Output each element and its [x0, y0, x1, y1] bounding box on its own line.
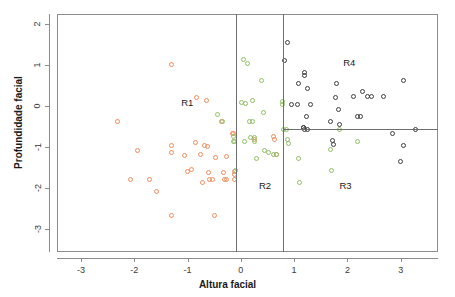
x-tick-label: -2: [130, 265, 138, 275]
partition-line-horizontal: [283, 129, 438, 130]
scatter-plot-figure: -3-2-10123210-1-2-3 R1R2R3R4 Altura faci…: [0, 0, 455, 297]
x-tick-mark: [241, 258, 242, 262]
region-label-r2: R2: [259, 180, 271, 191]
region-label-r4: R4: [343, 57, 355, 68]
x-tick-mark: [401, 258, 402, 262]
y-tick-label: 0: [32, 104, 42, 109]
x-axis-line: [57, 258, 438, 259]
y-tick-mark: [45, 188, 49, 189]
y-axis-line: [49, 14, 50, 252]
y-tick-label: -3: [33, 225, 43, 233]
y-axis-label: Profundidade facial: [13, 53, 24, 193]
y-tick-label: -2: [33, 184, 43, 192]
plot-frame: [57, 14, 438, 252]
x-tick-label: -1: [184, 265, 192, 275]
partition-line-vertical: [283, 14, 284, 252]
x-tick-label: -3: [77, 265, 85, 275]
x-tick-mark: [134, 258, 135, 262]
region-label-r3: R3: [339, 180, 351, 191]
x-tick-label: 3: [398, 265, 403, 275]
partition-line-vertical: [236, 14, 237, 252]
x-tick-mark: [188, 258, 189, 262]
y-tick-label: 1: [32, 63, 42, 68]
y-tick-mark: [45, 147, 49, 148]
y-tick-mark: [45, 106, 49, 107]
region-label-r1: R1: [181, 97, 193, 108]
x-tick-mark: [347, 258, 348, 262]
x-tick-label: 0: [238, 265, 243, 275]
y-tick-label: 2: [32, 22, 42, 27]
x-tick-mark: [81, 258, 82, 262]
x-tick-label: 1: [292, 265, 297, 275]
y-tick-mark: [45, 229, 49, 230]
y-tick-label: -1: [33, 143, 43, 151]
x-tick-label: 2: [345, 265, 350, 275]
x-tick-mark: [294, 258, 295, 262]
x-axis-label: Altura facial: [0, 279, 455, 290]
y-tick-mark: [45, 24, 49, 25]
y-tick-mark: [45, 65, 49, 66]
